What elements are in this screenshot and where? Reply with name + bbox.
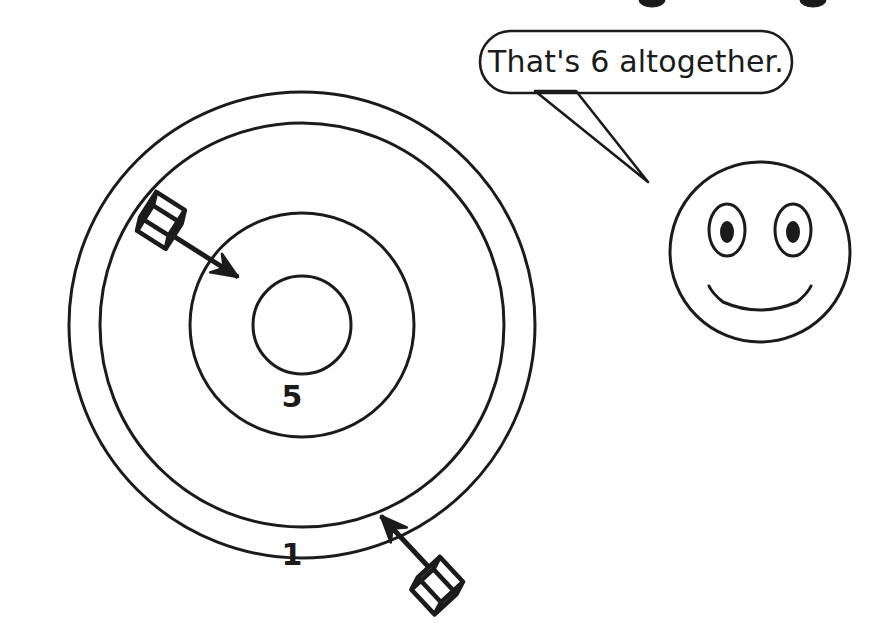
worksheet-canvas: 1 3 5 10 That's 6 altogether. <box>0 0 884 637</box>
ring-label-1: 1 <box>282 537 303 572</box>
dart-in-three-zone <box>381 516 463 614</box>
cropped-text-above <box>639 0 826 7</box>
face-outline <box>670 162 850 342</box>
dart-fletching <box>411 557 463 615</box>
speech-bubble-tail <box>535 91 648 182</box>
scoring-target[interactable]: 1 3 5 10 <box>69 92 535 572</box>
ring-label-3: 3 <box>285 456 306 491</box>
scene-illustration: 1 3 5 10 That's 6 altogether. <box>0 0 884 637</box>
smile-mouth <box>709 286 811 310</box>
cropped-glyph-mark <box>800 0 826 7</box>
right-pupil <box>786 221 800 243</box>
ring-label-10: 10 <box>281 304 323 339</box>
smiling-face <box>670 162 850 342</box>
ring-label-5: 5 <box>282 379 303 414</box>
speech-bubble-text: That's 6 altogether. <box>487 44 784 79</box>
speech-bubble: That's 6 altogether. <box>480 31 792 182</box>
cropped-glyph-mark <box>639 0 665 7</box>
left-pupil <box>720 221 734 243</box>
dart-in-five-zone <box>137 192 238 277</box>
